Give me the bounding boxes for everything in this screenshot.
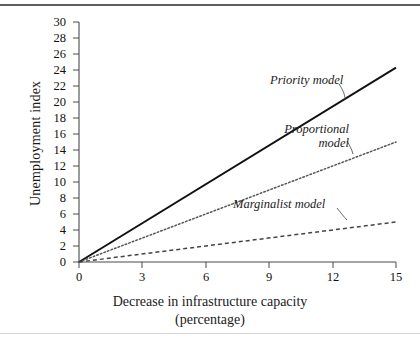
x-tick-label: 9 [257, 270, 281, 285]
x-tick-label: 12 [321, 270, 345, 285]
y-tick-label: 24 [40, 63, 66, 78]
y-tick-label: 30 [40, 15, 66, 30]
x-axis-title-line2: (percentage) [0, 311, 420, 329]
series-label-proportional-line2: model [318, 136, 349, 150]
x-tick-label: 3 [130, 270, 154, 285]
x-axis-title-line1: Decrease in infrastructure capacity [113, 294, 308, 309]
series-label-proportional-line1: Proportional [284, 122, 349, 136]
y-tick-label: 6 [40, 207, 66, 222]
y-tick-marks [73, 22, 79, 262]
y-axis-title: Unemployment index [28, 81, 44, 206]
series-line-priority [79, 68, 396, 262]
y-tick-label: 26 [40, 47, 66, 62]
y-tick-label: 0 [40, 255, 66, 270]
x-tick-label: 15 [384, 270, 408, 285]
y-tick-label: 2 [40, 239, 66, 254]
series-label-priority: Priority model [270, 73, 343, 87]
series-label-marginalist: Marginalist model [233, 197, 325, 211]
series-label-proportional: Proportional model [249, 122, 349, 151]
series-line-marginalist [79, 222, 396, 262]
x-tick-label: 0 [67, 270, 91, 285]
figure-container: 30 28 26 24 22 20 18 16 14 12 10 8 6 4 2… [0, 0, 420, 339]
y-tick-label: 28 [40, 31, 66, 46]
x-tick-marks [79, 262, 396, 268]
leader-line-marginalist [337, 208, 347, 220]
x-axis-title: Decrease in infrastructure capacity (per… [0, 293, 420, 328]
x-tick-label: 6 [194, 270, 218, 285]
y-tick-label: 4 [40, 223, 66, 238]
